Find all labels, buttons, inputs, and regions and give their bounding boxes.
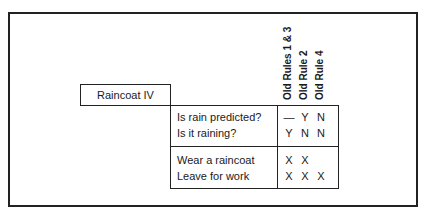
- action-value: X: [314, 170, 328, 182]
- table-top-border: [171, 105, 338, 106]
- decision-table: Is rain predicted? Is it raining? — Y N …: [170, 105, 339, 189]
- condition-value: N: [314, 111, 328, 123]
- condition-value: N: [298, 127, 312, 139]
- column-header-old-rule-2: Old Rule 2: [298, 51, 310, 100]
- action-label: Leave for work: [177, 170, 249, 182]
- action-label: Wear a raincoat: [177, 154, 254, 166]
- action-value: X: [282, 154, 296, 166]
- condition-value: —: [282, 111, 296, 123]
- title-label: Raincoat IV: [97, 89, 154, 101]
- column-header-old-rules-1-3: Old Rules 1 & 3: [282, 27, 294, 100]
- condition-value: Y: [282, 127, 296, 139]
- action-value: X: [298, 154, 312, 166]
- action-value: X: [298, 170, 312, 182]
- table-row-divider: [171, 146, 338, 147]
- action-value: X: [282, 170, 296, 182]
- decision-table-title: Raincoat IV: [80, 84, 171, 106]
- condition-label: Is it raining?: [177, 127, 236, 139]
- condition-label: Is rain predicted?: [177, 111, 261, 123]
- condition-value: Y: [298, 111, 312, 123]
- column-header-old-rule-4: Old Rule 4: [314, 51, 326, 100]
- condition-value: N: [314, 127, 328, 139]
